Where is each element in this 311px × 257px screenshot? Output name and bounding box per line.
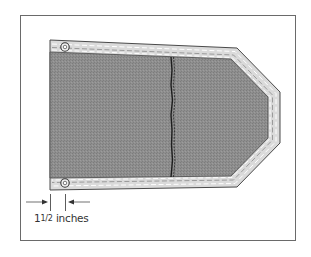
- grommet-top: [61, 43, 69, 51]
- fabric-panel: [50, 52, 268, 178]
- dimension-unit: inches: [56, 212, 89, 224]
- dimension-arrows: [26, 194, 90, 211]
- dimension-fraction: 1/2: [40, 214, 52, 223]
- dimension-label: 11/2 inches: [34, 212, 89, 224]
- grommet-bottom: [61, 179, 69, 187]
